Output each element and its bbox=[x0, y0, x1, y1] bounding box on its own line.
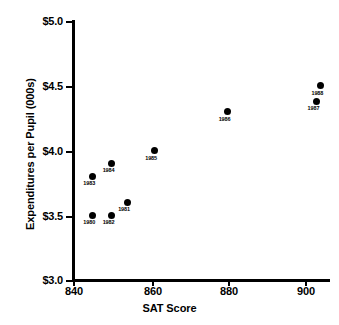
data-point-label: 1985 bbox=[145, 155, 157, 161]
y-tick-mark bbox=[66, 151, 73, 153]
data-point-marker bbox=[108, 160, 115, 167]
y-tick-mark bbox=[66, 280, 73, 282]
data-point-marker bbox=[313, 98, 320, 105]
data-point-marker bbox=[89, 212, 96, 219]
y-tick-label: $3.5 bbox=[3, 210, 63, 222]
data-point-marker bbox=[224, 108, 231, 115]
x-tick-label: 860 bbox=[130, 285, 176, 297]
data-point-marker bbox=[124, 199, 131, 206]
x-tick-label: 900 bbox=[283, 285, 329, 297]
data-point-label: 1981 bbox=[118, 206, 130, 212]
data-point-label: 1984 bbox=[103, 167, 115, 173]
data-point-label: 1988 bbox=[311, 90, 323, 96]
y-tick-label: $5.0 bbox=[3, 15, 63, 27]
data-point-label: 1986 bbox=[219, 116, 231, 122]
data-point-label: 1980 bbox=[83, 219, 95, 225]
x-axis-title: SAT Score bbox=[0, 302, 339, 314]
data-point-label: 1987 bbox=[308, 105, 320, 111]
x-tick-label: 840 bbox=[51, 285, 97, 297]
data-point-marker bbox=[108, 212, 115, 219]
y-tick-label: $4.0 bbox=[3, 145, 63, 157]
x-axis-line bbox=[72, 279, 330, 282]
scatter-chart: Expenditures per Pupil (000s) SAT Score … bbox=[0, 0, 339, 325]
data-point-marker bbox=[317, 82, 324, 89]
y-tick-mark bbox=[66, 216, 73, 218]
y-tick-mark bbox=[66, 86, 73, 88]
data-point-label: 1983 bbox=[83, 180, 95, 186]
data-point-marker bbox=[151, 147, 158, 154]
y-tick-mark bbox=[66, 21, 73, 23]
data-point-label: 1982 bbox=[103, 219, 115, 225]
y-tick-label: $4.5 bbox=[3, 80, 63, 92]
data-point-marker bbox=[89, 173, 96, 180]
x-tick-label: 880 bbox=[206, 285, 252, 297]
